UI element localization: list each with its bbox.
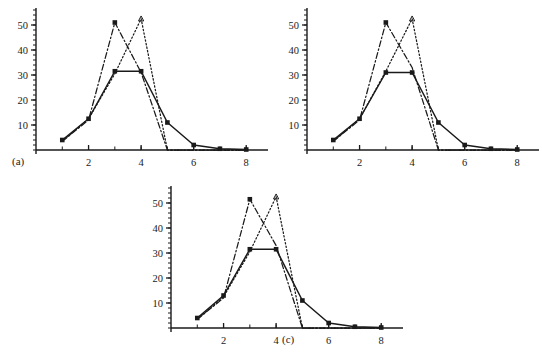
svg-text:30: 30 — [153, 248, 164, 259]
svg-text:10: 10 — [18, 120, 29, 131]
svg-text:50: 50 — [289, 20, 300, 31]
svg-text:30: 30 — [18, 70, 29, 81]
panel-label-a: (a) — [12, 155, 24, 167]
svg-text:40: 40 — [153, 223, 164, 234]
figure-three-panel-line-charts: 10203040502468 (a) 10203040502468 (b) 10… — [0, 0, 542, 356]
svg-text:6: 6 — [191, 157, 196, 168]
panel-b: 10203040502468 (b) — [271, 0, 542, 178]
svg-text:40: 40 — [289, 45, 300, 56]
svg-text:10: 10 — [153, 298, 164, 309]
svg-text:8: 8 — [379, 335, 384, 346]
plot-area-c: 10203040502468 — [135, 178, 406, 356]
svg-text:2: 2 — [86, 157, 91, 168]
svg-text:30: 30 — [289, 70, 300, 81]
panel-label-c: (c) — [282, 333, 294, 345]
plot-area-a: 10203040502468 — [0, 0, 271, 178]
svg-text:40: 40 — [18, 45, 29, 56]
svg-text:4: 4 — [273, 335, 279, 346]
svg-text:50: 50 — [153, 198, 164, 209]
svg-text:4: 4 — [138, 157, 144, 168]
svg-text:6: 6 — [462, 157, 467, 168]
svg-text:20: 20 — [18, 95, 29, 106]
svg-text:50: 50 — [18, 20, 29, 31]
svg-text:4: 4 — [409, 157, 415, 168]
svg-text:6: 6 — [326, 335, 331, 346]
svg-text:8: 8 — [244, 157, 249, 168]
panel-a: 10203040502468 (a) — [0, 0, 271, 178]
svg-text:2: 2 — [357, 157, 362, 168]
svg-text:20: 20 — [153, 273, 164, 284]
svg-text:20: 20 — [289, 95, 300, 106]
plot-area-b: 10203040502468 — [271, 0, 542, 178]
svg-text:2: 2 — [221, 335, 226, 346]
svg-text:10: 10 — [289, 120, 300, 131]
svg-text:8: 8 — [515, 157, 520, 168]
panel-c: 10203040502468 (c) — [135, 178, 406, 356]
